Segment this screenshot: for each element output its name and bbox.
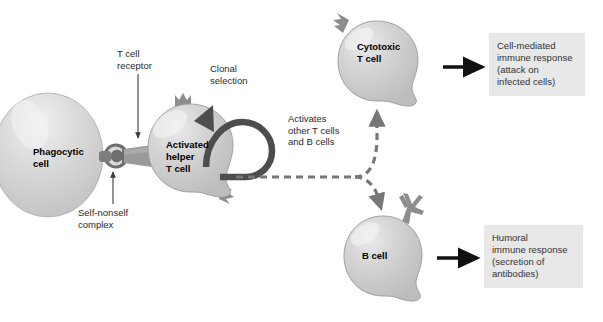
activated-helper-t-cell-label: Activated helper T cell [166, 139, 209, 175]
cytotoxic-t-cell-receptor [333, 13, 349, 33]
clonal-selection-label: Clonal selection [210, 63, 248, 86]
t-cell-receptor-label: T cell receptor [117, 48, 152, 71]
cell-mediated-response-box: Cell-mediated immune response (attack on… [489, 33, 585, 96]
activates-other-cells-label: Activates other T cells and B cells [288, 113, 339, 148]
b-cell-label: B cell [362, 250, 387, 262]
phagocytic-cell-label: Phagocytic cell [33, 146, 84, 170]
b-cell-antibody-receptor [399, 193, 424, 224]
humoral-response-box: Humoral immune response (secretion of an… [484, 225, 583, 288]
self-nonself-complex-label: Self-nonself complex [78, 207, 128, 230]
immune-response-diagram: Phagocytic cell Activated helper T cell … [0, 0, 603, 322]
cytotoxic-t-cell-label: Cytotoxic T cell [357, 41, 400, 65]
